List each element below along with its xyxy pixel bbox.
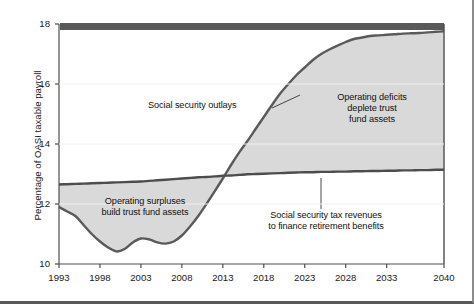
x-tick-label: 2023 xyxy=(288,272,322,283)
y-tick-label: 14 xyxy=(30,138,50,149)
x-tick-label: 2033 xyxy=(370,272,404,283)
x-tick-label: 2018 xyxy=(247,272,281,283)
x-tick-label: 2013 xyxy=(206,272,240,283)
top-cap-bar xyxy=(60,23,444,30)
x-tick-label: 2003 xyxy=(124,272,158,283)
chart-canvas xyxy=(0,0,474,304)
x-tick-label: 2028 xyxy=(329,272,363,283)
y-tick-label: 12 xyxy=(30,198,50,209)
annotation-operating-deficits: Operating deficits deplete trust fund as… xyxy=(320,92,424,125)
annotation-operating-surpluses: Operating surpluses build trust fund ass… xyxy=(76,196,214,218)
chart-figure: Percentage of OASI taxable payroll 10121… xyxy=(0,0,474,304)
x-tick-label: 1993 xyxy=(42,272,76,283)
annotation-social-security-tax-revenues: Social security tax revenues to finance … xyxy=(236,210,416,232)
y-tick-label: 18 xyxy=(30,18,50,29)
x-tick-label: 2008 xyxy=(165,272,199,283)
y-tick-label: 10 xyxy=(30,258,50,269)
x-tick-label: 1998 xyxy=(83,272,117,283)
x-tick-label: 2040 xyxy=(427,272,461,283)
annotation-social-security-outlays: Social security outlays xyxy=(148,100,270,111)
y-tick-label: 16 xyxy=(30,78,50,89)
